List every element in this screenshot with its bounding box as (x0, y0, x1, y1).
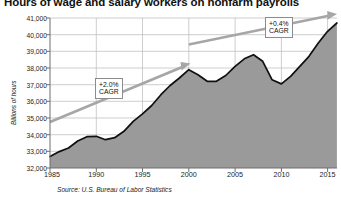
chart-container: Hours of wage and salary workers on nonf… (0, 0, 341, 201)
x-tick-label: 2010 (273, 170, 289, 179)
x-tick-label: 2015 (320, 170, 336, 179)
annotation-value: +0.4% (269, 20, 289, 28)
x-tick-label: 1995 (135, 170, 151, 179)
x-tick-label: 1990 (88, 170, 104, 179)
annotation-cagr-late: +0.4% CAGR (265, 17, 293, 38)
annotation-metric: CAGR (99, 88, 119, 96)
annotation-metric: CAGR (269, 27, 289, 35)
x-tick-label: 1985 (44, 170, 60, 179)
x-tick-label: 2005 (227, 170, 243, 179)
annotation-value: +2.0% (99, 81, 119, 89)
trend-arrow-late (189, 11, 337, 45)
source-note: Source: U.S. Bureau of Labor Statistics (57, 186, 172, 193)
x-tick-label: 2000 (181, 170, 197, 179)
annotation-cagr-early: +2.0% CAGR (95, 78, 123, 99)
y-tick-marks (46, 18, 50, 168)
